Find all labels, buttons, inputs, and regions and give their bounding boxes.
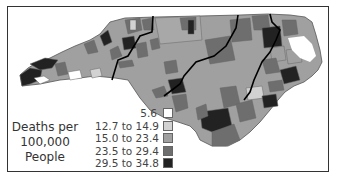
legend-label: 29.5 to 34.8 [95,157,157,169]
legend: 5.6 12.7 to 14.9 15.0 to 23.4 23.5 to 29… [95,107,173,170]
legend-title-line: People [10,150,80,165]
legend-title-line: 100,000 [10,135,80,150]
legend-label: 23.5 to 29.4 [95,145,157,157]
legend-swatch [163,121,173,131]
legend-label: 12.7 to 14.9 [95,120,157,132]
legend-title-line: Deaths per [10,120,80,135]
legend-item: 12.7 to 14.9 [95,120,173,133]
legend-title: Deaths per 100,000 People [10,120,80,165]
legend-swatch [163,146,173,156]
legend-item: 5.6 [95,107,173,120]
legend-label: 5.6 [95,107,157,119]
legend-swatch [163,158,173,168]
legend-label: 15.0 to 23.4 [95,132,157,144]
legend-swatch [163,133,173,143]
legend-swatch [163,108,173,118]
legend-item: 23.5 to 29.4 [95,145,173,158]
legend-item: 15.0 to 23.4 [95,132,173,145]
legend-item: 29.5 to 34.8 [95,157,173,170]
